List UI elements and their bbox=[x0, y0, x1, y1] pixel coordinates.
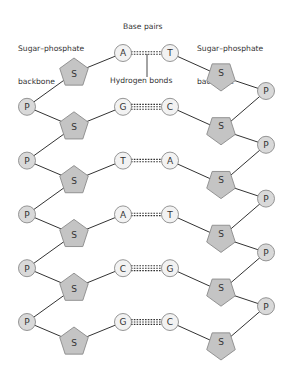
sugar-label: S bbox=[71, 69, 77, 79]
hydrogen-bond-4 bbox=[131, 213, 162, 215]
svg-text:P: P bbox=[263, 302, 269, 312]
sugar-label: S bbox=[71, 284, 77, 294]
left-sugar-1: S bbox=[60, 58, 89, 85]
left-base-G-2: G bbox=[115, 98, 132, 115]
right-phosphate-1: P bbox=[258, 83, 275, 100]
svg-text:P: P bbox=[24, 102, 30, 112]
hydrogen-bond-3 bbox=[131, 159, 162, 161]
right-base-T-1: T bbox=[162, 45, 179, 62]
left-base-A-1: A bbox=[115, 45, 132, 62]
svg-text:T: T bbox=[166, 48, 173, 58]
right-phosphate-4: P bbox=[258, 244, 275, 261]
svg-text:C: C bbox=[167, 317, 173, 327]
right-sugar-2: S bbox=[207, 118, 236, 145]
left-base-T-3: T bbox=[115, 152, 132, 169]
sugar-label: S bbox=[218, 283, 224, 293]
svg-text:T: T bbox=[119, 156, 126, 166]
left-phosphate-1: P bbox=[19, 98, 36, 115]
right-sugar-4: S bbox=[207, 225, 236, 252]
backbone-lines bbox=[27, 53, 266, 345]
svg-text:P: P bbox=[24, 317, 30, 327]
left-base-C-5: C bbox=[115, 260, 132, 277]
left-phosphate-2: P bbox=[19, 152, 36, 169]
dna-structure-diagram: Sugar–phosphate backbone Base pairs Suga… bbox=[0, 0, 296, 377]
left-sugar-4: S bbox=[60, 219, 89, 246]
right-phosphate-5: P bbox=[258, 298, 275, 315]
left-sugar-3: S bbox=[60, 166, 89, 193]
svg-text:P: P bbox=[263, 248, 269, 258]
right-sugar-1: S bbox=[207, 64, 236, 91]
svg-text:A: A bbox=[120, 210, 127, 220]
svg-text:T: T bbox=[166, 210, 173, 220]
left-phosphate-4: P bbox=[19, 260, 36, 277]
sugar-label: S bbox=[218, 68, 224, 78]
svg-text:P: P bbox=[24, 210, 30, 220]
left-base-A-4: A bbox=[115, 206, 132, 223]
right-base-C-2: C bbox=[162, 98, 179, 115]
svg-text:P: P bbox=[24, 156, 30, 166]
dna-ladder-graphic: SSATPPSSGCPPSSTAPPSSATPPSSCGPPSSGC bbox=[0, 0, 296, 377]
right-base-C-6: C bbox=[162, 314, 179, 331]
sugar-label: S bbox=[218, 175, 224, 185]
sugar-label: S bbox=[71, 230, 77, 240]
svg-text:P: P bbox=[263, 194, 269, 204]
svg-text:A: A bbox=[167, 156, 174, 166]
sugar-label: S bbox=[218, 121, 224, 131]
right-sugar-5: S bbox=[207, 279, 236, 306]
svg-text:P: P bbox=[263, 86, 269, 96]
sugar-label: S bbox=[71, 122, 77, 132]
svg-text:A: A bbox=[120, 48, 127, 58]
sugar-label: S bbox=[218, 229, 224, 239]
right-base-T-4: T bbox=[162, 206, 179, 223]
right-sugar-3: S bbox=[207, 171, 236, 198]
right-base-A-3: A bbox=[162, 152, 179, 169]
sugar-label: S bbox=[218, 337, 224, 347]
svg-text:G: G bbox=[120, 317, 127, 327]
right-sugar-6: S bbox=[207, 333, 236, 360]
sugar-label: S bbox=[71, 338, 77, 348]
svg-text:C: C bbox=[167, 102, 173, 112]
svg-text:C: C bbox=[120, 264, 126, 274]
right-phosphate-3: P bbox=[258, 190, 275, 207]
left-base-G-6: G bbox=[115, 314, 132, 331]
svg-text:G: G bbox=[167, 264, 174, 274]
left-sugar-2: S bbox=[60, 112, 89, 139]
left-phosphate-5: P bbox=[19, 314, 36, 331]
left-sugar-6: S bbox=[60, 327, 89, 354]
hydrogen-bond-6 bbox=[131, 320, 162, 325]
svg-text:P: P bbox=[263, 140, 269, 150]
sugar-label: S bbox=[71, 176, 77, 186]
svg-text:P: P bbox=[24, 264, 30, 274]
hydrogen-bond-5 bbox=[131, 266, 162, 271]
left-phosphate-3: P bbox=[19, 206, 36, 223]
hydrogen-bond-2 bbox=[131, 104, 162, 109]
left-sugar-5: S bbox=[60, 273, 89, 300]
svg-text:G: G bbox=[120, 102, 127, 112]
right-phosphate-2: P bbox=[258, 136, 275, 153]
right-base-G-5: G bbox=[162, 260, 179, 277]
hydrogen-bond-1 bbox=[131, 52, 162, 54]
